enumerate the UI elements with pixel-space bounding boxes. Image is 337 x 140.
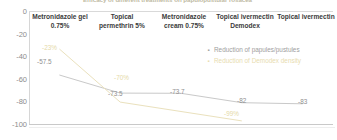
legend-label-demodex-density: Reduction of Demodex density	[214, 57, 301, 64]
legend-marker-icon: ▪	[205, 47, 212, 53]
data-label-demodex-1: -70%	[114, 74, 129, 81]
data-label-papules-4: -83	[298, 98, 307, 105]
chart-legend[interactable]: ▪ Reduction of papules/pustules ▪ Reduct…	[205, 44, 335, 66]
legend-marker-icon: ▪	[205, 58, 212, 64]
data-label-papules-3: -82	[237, 97, 246, 104]
legend-item-demodex-density[interactable]: ▪ Reduction of Demodex density	[205, 55, 335, 66]
legend-label-papules-pustules: Reduction of papules/pustules	[214, 46, 300, 53]
data-label-papules-1: -73.5	[108, 90, 123, 97]
data-label-papules-0: -57.5	[37, 58, 52, 65]
data-label-demodex-0: -23%	[42, 44, 57, 51]
data-label-papules-2: -73.7	[170, 88, 185, 95]
data-label-demodex-3: -99%	[224, 110, 239, 117]
legend-item-papules-pustules[interactable]: ▪ Reduction of papules/pustules	[205, 44, 335, 55]
